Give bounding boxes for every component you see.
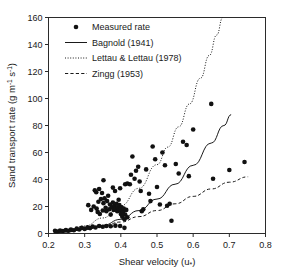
data-point <box>174 162 179 167</box>
scatter-plot-svg: 0204060801001201401600.20.30.40.50.60.70… <box>0 0 288 279</box>
y-axis-tick-label: 20 <box>32 202 42 212</box>
legend-label: Measured rate <box>92 22 150 32</box>
legend-marker-measured <box>74 25 79 30</box>
legend-label: Lettau & Lettau (1978) <box>92 53 182 63</box>
data-point <box>116 197 121 202</box>
y-axis-tick-label: 160 <box>27 13 42 23</box>
y-axis-title: Sand transport rate (g m-1 s-1) <box>6 63 17 188</box>
data-point <box>134 168 139 173</box>
data-point <box>104 224 109 229</box>
data-point <box>147 191 152 196</box>
data-point <box>150 144 155 149</box>
data-point <box>191 127 196 132</box>
data-point <box>209 102 214 107</box>
x-axis-title: Shear velocity (u*) <box>119 256 196 268</box>
data-point <box>137 179 142 184</box>
data-point <box>108 224 113 229</box>
data-point <box>148 199 153 204</box>
model-curve <box>54 18 223 233</box>
x-axis-tick-label: 0.5 <box>151 240 164 250</box>
data-point <box>113 223 118 228</box>
data-point <box>125 215 130 220</box>
data-point <box>176 171 181 176</box>
chart-figure: 0204060801001201401600.20.30.40.50.60.70… <box>0 0 288 279</box>
y-axis-tick-label: 120 <box>27 67 42 77</box>
y-axis-tick-label: 140 <box>27 40 42 50</box>
data-point <box>136 164 141 169</box>
data-point <box>118 186 123 191</box>
data-point <box>138 189 143 194</box>
data-point <box>167 202 172 207</box>
x-axis-tick-label: 0.2 <box>42 240 55 250</box>
plot-frame <box>49 18 266 234</box>
legend-label: Zingg (1953) <box>92 69 143 79</box>
data-point <box>144 167 149 172</box>
x-axis-tick-label: 0.6 <box>187 240 200 250</box>
x-axis-tick-label: 0.3 <box>78 240 91 250</box>
data-point <box>163 163 168 168</box>
data-point <box>128 182 133 187</box>
data-point <box>169 218 174 223</box>
y-axis-tick-label: 0 <box>37 229 42 239</box>
plot-area <box>53 18 248 234</box>
data-point <box>97 187 102 192</box>
data-point <box>108 212 113 217</box>
data-point <box>124 208 129 213</box>
data-point <box>101 178 106 183</box>
y-axis-tick-label: 100 <box>27 94 42 104</box>
data-point <box>118 224 123 229</box>
data-point <box>227 168 232 173</box>
data-point <box>160 150 165 155</box>
data-point <box>111 185 116 190</box>
data-point <box>184 143 189 148</box>
data-point <box>187 174 192 179</box>
model-curve <box>54 177 248 233</box>
data-point <box>242 160 247 165</box>
data-point <box>211 177 216 182</box>
data-point <box>181 139 186 144</box>
data-point <box>86 203 91 208</box>
data-point <box>141 207 146 212</box>
legend-label: Bagnold (1941) <box>92 38 154 48</box>
data-point <box>132 177 137 182</box>
x-axis-tick-label: 0.4 <box>115 240 128 250</box>
data-point <box>158 202 163 207</box>
y-axis-tick-label: 80 <box>32 121 42 131</box>
data-point <box>155 185 160 190</box>
x-axis-tick-label: 0.7 <box>223 240 236 250</box>
x-axis-tick-label: 0.8 <box>259 240 272 250</box>
data-point <box>153 157 158 162</box>
data-point <box>122 226 127 231</box>
data-point <box>106 193 111 198</box>
model-curve <box>54 115 231 233</box>
data-point <box>129 172 134 177</box>
y-axis-tick-label: 40 <box>32 175 42 185</box>
y-axis-tick-label: 60 <box>32 148 42 158</box>
data-point <box>130 154 135 159</box>
data-point <box>100 191 105 196</box>
